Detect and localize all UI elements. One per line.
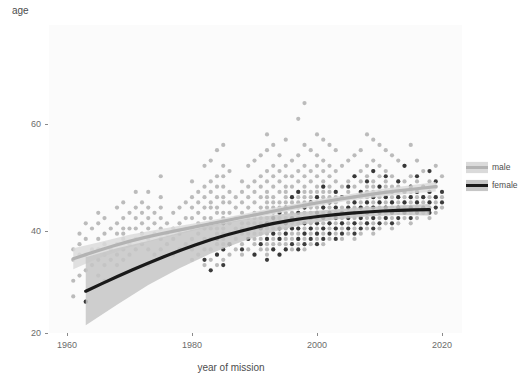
- legend-item-male[interactable]: male: [466, 158, 528, 176]
- legend-key-female: [466, 179, 488, 192]
- x-tick-label: 1960: [47, 340, 87, 350]
- x-tick-mark: [317, 333, 318, 336]
- x-axis-title: year of mission: [0, 362, 462, 373]
- legend: male female: [466, 158, 528, 194]
- x-tick-mark: [192, 333, 193, 336]
- y-tick-label: 40: [8, 226, 41, 236]
- y-axis-title: age: [12, 5, 29, 16]
- plot-panel: [49, 25, 462, 333]
- scatter-plot-svg: [49, 25, 462, 333]
- legend-item-female[interactable]: female: [466, 176, 528, 194]
- legend-line-female: [466, 184, 488, 187]
- x-tick-label: 2000: [297, 340, 337, 350]
- x-tick-mark: [442, 333, 443, 336]
- y-tick-mark: [45, 124, 48, 125]
- legend-line-male: [466, 166, 488, 169]
- x-tick-mark: [67, 333, 68, 336]
- legend-key-male: [466, 161, 488, 174]
- chart-canvas: age year of mission 60 40 20 1960 1980 2…: [0, 0, 530, 391]
- y-tick-mark: [45, 333, 48, 334]
- y-tick-mark: [45, 231, 48, 232]
- legend-label-female: female: [492, 179, 518, 191]
- y-tick-label: 20: [8, 328, 41, 338]
- y-tick-label: 60: [8, 119, 41, 129]
- legend-label-male: male: [492, 161, 510, 173]
- x-tick-label: 1980: [172, 340, 212, 350]
- x-tick-label: 2020: [422, 340, 462, 350]
